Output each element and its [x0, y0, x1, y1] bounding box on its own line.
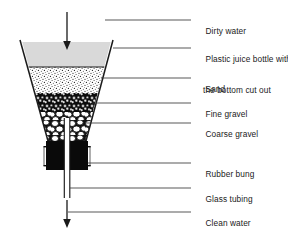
- label-coarse-gravel: Coarse gravel: [196, 118, 258, 150]
- layer-sand: [28, 66, 106, 95]
- glass-tubing: [64, 118, 70, 198]
- label-rubber-bung-line1: Rubber bung: [206, 169, 255, 179]
- label-dirty-water: Dirty water: [196, 15, 246, 47]
- label-dirty-water-line1: Dirty water: [206, 26, 247, 36]
- label-fine-gravel-line1: Fine gravel: [206, 109, 248, 119]
- layer-fine-gravel: [34, 92, 100, 114]
- diagram-page: Dirty water Plastic juice bottle with th…: [0, 0, 288, 235]
- label-sand-line1: Sand: [206, 84, 226, 94]
- label-plastic-bottle-line1: Plastic juice bottle with: [206, 54, 288, 64]
- outflow-arrow: [63, 200, 71, 228]
- label-coarse-gravel-line1: Coarse gravel: [206, 129, 259, 139]
- label-clean-water-line1: Clean water: [206, 218, 251, 228]
- label-glass-tubing-line1: Glass tubing: [206, 194, 253, 204]
- label-clean-water: Clean water: [196, 207, 251, 235]
